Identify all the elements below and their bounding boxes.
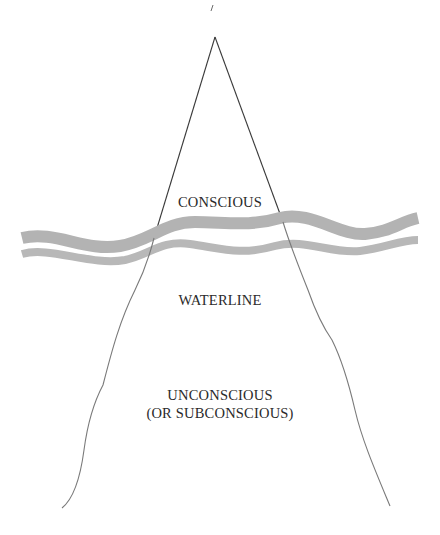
iceberg-diagram — [0, 0, 440, 535]
unconscious-label-line1: UNCONSCIOUS — [100, 386, 340, 404]
unconscious-label: UNCONSCIOUS (OR SUBCONSCIOUS) — [100, 386, 340, 422]
conscious-label: CONSCIOUS — [120, 193, 320, 211]
waterline-label: WATERLINE — [120, 291, 320, 309]
waterline-waves — [22, 216, 418, 261]
iceberg-right-edge-lower — [283, 222, 390, 506]
unconscious-label-line2: (OR SUBCONSCIOUS) — [100, 404, 340, 422]
upper-wave — [22, 216, 418, 247]
top-tick-mark — [211, 5, 213, 11]
iceberg-left-edge-lower — [62, 238, 154, 508]
